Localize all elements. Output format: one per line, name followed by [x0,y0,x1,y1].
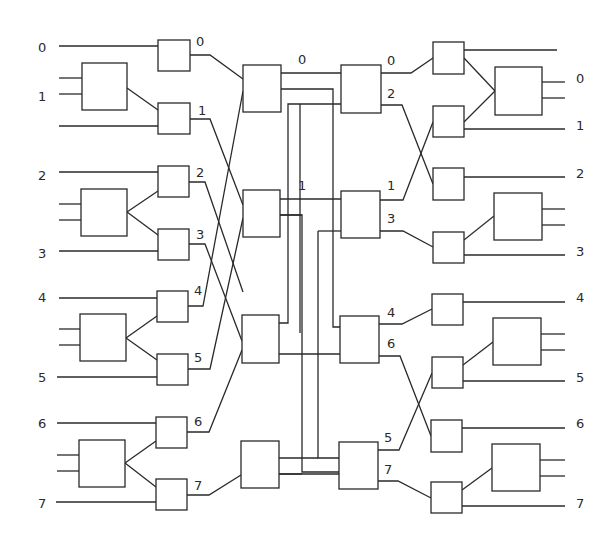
wire-50 [379,356,431,436]
stage2-switch-3 [241,441,279,488]
stage1-port-label-4: 4 [194,283,202,298]
output-label-2: 2 [576,166,584,181]
stage3-port-label-5: 5 [384,430,392,445]
stage2-port-label-1: 1 [298,178,306,193]
input-switch-4 [157,291,188,322]
wire-41 [279,104,300,323]
wire-32 [281,89,340,327]
output-switch-7 [431,482,462,513]
input-label-6: 6 [38,416,46,431]
output-switch-4 [432,294,463,325]
input-switch-7 [156,479,187,510]
stage3-port-label-1: 1 [387,178,395,193]
stage3-port-label-7: 7 [384,462,392,477]
input-label-7: 7 [38,496,46,511]
output-switch-2 [433,168,464,200]
wire-52 [378,481,431,498]
wire-21 [188,91,243,306]
stage3-port-label-4: 4 [387,305,395,320]
output-module-b [494,193,542,240]
stage1-port-label-1: 1 [198,103,206,118]
wire-19 [126,338,157,360]
output-module-c [493,318,541,365]
input-module-a [82,63,127,110]
input-switch-2 [158,166,189,197]
stage1-port-label-5: 5 [194,350,202,365]
wire-5 [190,55,243,79]
wire-3 [127,88,158,110]
stage3-port-label-3: 3 [387,211,395,226]
input-switch-0 [158,40,190,71]
output-switch-5 [432,357,463,388]
input-switch-1 [158,103,190,134]
input-label-1: 1 [38,89,46,104]
input-switch-3 [158,229,189,260]
wire-60 [464,216,494,240]
output-label-7: 7 [576,496,584,511]
stage1-port-label-3: 3 [196,227,204,242]
output-switch-3 [433,232,464,263]
stage3-switch-1 [341,191,380,238]
wire-11 [127,212,158,235]
stage3-switch-2 [340,316,379,363]
output-switch-0 [433,42,464,74]
diagram-canvas: 0123456701234567012345670102134657 [0,0,614,544]
stage2-switch-2 [242,315,279,363]
output-switch-6 [431,420,462,452]
output-module-a [495,67,542,115]
wire-39 [318,231,339,458]
wire-55 [464,91,495,122]
stage1-port-label-2: 2 [196,165,204,180]
input-label-0: 0 [38,40,46,55]
wire-36 [280,215,339,472]
wire-65 [463,342,493,365]
output-switch-1 [433,106,464,137]
stage3-switch-3 [339,442,378,489]
wire-10 [127,191,158,212]
wires-layer [56,46,565,506]
output-label-1: 1 [576,118,584,133]
input-label-3: 3 [38,246,46,261]
wire-18 [126,316,157,338]
output-label-6: 6 [576,416,584,431]
stage2-port-label-0: 0 [298,52,306,67]
stage2-switch-0 [243,65,281,112]
output-label-3: 3 [576,244,584,259]
output-label-0: 0 [576,71,584,86]
stage1-port-label-6: 6 [194,414,202,429]
wire-27 [125,463,156,487]
wire-70 [462,468,492,490]
input-module-d [79,440,125,487]
stage3-port-label-0: 0 [387,53,395,68]
stage1-port-label-0: 0 [196,34,204,49]
input-label-2: 2 [38,168,46,183]
stage3-switch-0 [341,65,381,113]
output-label-4: 4 [576,290,584,305]
network-diagram: 0123456701234567012345670102134657 [0,0,614,544]
wire-48 [380,231,433,247]
input-label-4: 4 [38,290,46,305]
switch-boxes-layer [79,40,542,513]
input-label-5: 5 [38,370,46,385]
wire-26 [125,441,156,463]
output-label-5: 5 [576,370,584,385]
stage3-port-label-2: 2 [387,86,395,101]
wire-54 [464,58,495,91]
stage3-port-label-6: 6 [387,336,395,351]
input-switch-5 [157,354,188,385]
input-module-b [81,189,127,236]
input-switch-6 [156,417,187,448]
stage1-port-label-7: 7 [194,478,202,493]
wire-46 [381,105,433,184]
input-module-c [80,314,126,361]
stage2-switch-1 [243,190,280,237]
output-module-d [492,444,540,491]
